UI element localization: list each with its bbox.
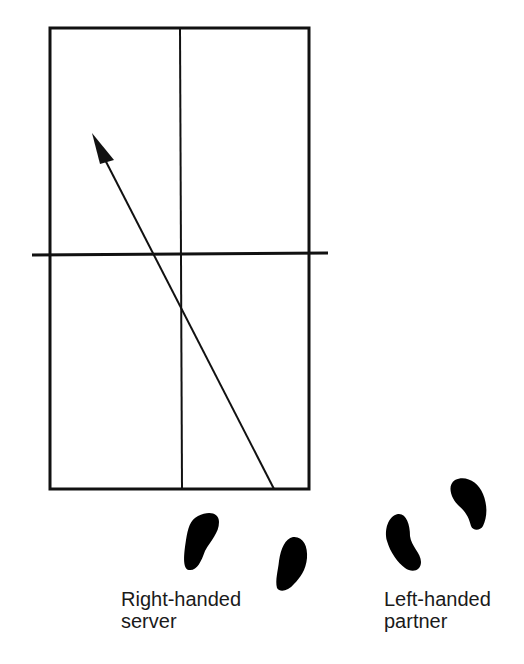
net-line <box>32 253 328 255</box>
partner-label-line2: partner <box>384 610 491 632</box>
server-label-line2: server <box>121 610 241 632</box>
shot-arrow <box>92 133 274 489</box>
center-line <box>180 28 182 489</box>
footprint-icon <box>450 478 486 529</box>
court-lines <box>32 28 328 489</box>
footprint-icon <box>184 513 219 570</box>
arrowhead-icon <box>92 133 114 164</box>
footprint-icon <box>276 537 307 591</box>
partner-footprints <box>386 478 486 570</box>
server-label: Right-handed server <box>121 588 241 632</box>
server-label-line1: Right-handed <box>121 588 241 610</box>
footprint-icon <box>386 514 421 571</box>
court-diagram <box>0 0 524 664</box>
partner-label: Left-handed partner <box>384 588 491 632</box>
server-footprints <box>184 513 307 591</box>
partner-label-line1: Left-handed <box>384 588 491 610</box>
